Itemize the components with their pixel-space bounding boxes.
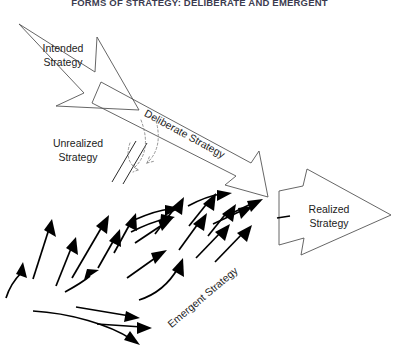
deliberate-label: Deliberate Strategy: [143, 107, 228, 161]
deliberate-strategy-arrow: [92, 82, 268, 197]
unrealized-hash-1: [112, 141, 136, 182]
emergent-label: Emergent Strategy: [165, 264, 240, 330]
emergent-arrow: [76, 307, 130, 316]
unrealized-hash-2: [123, 143, 147, 184]
emergent-arrowhead: [151, 250, 167, 264]
realized-label-line1: Realized: [309, 203, 350, 215]
emergent-strategy-label: Emergent Strategy: [165, 264, 240, 330]
deliberate-strategy-label: Deliberate Strategy: [143, 107, 228, 161]
emergent-arrowhead: [137, 322, 152, 334]
unrealized-strategy-label: Unrealized Strategy: [53, 137, 103, 163]
emergent-arrowhead: [84, 269, 99, 280]
emergent-arrow: [33, 229, 49, 279]
emergent-arrow: [6, 272, 22, 298]
emergent-arrow: [139, 268, 178, 300]
figure-title: FORMS OF STRATEGY: DELIBERATE AND EMERGE…: [71, 0, 328, 8]
unrealized-label-line1: Unrealized: [53, 137, 103, 149]
emergent-arrow: [56, 246, 72, 286]
intended-label-line2: Strategy: [43, 56, 83, 68]
emergent-arrowhead: [247, 199, 263, 212]
emergent-arrowhead: [171, 197, 184, 215]
strategy-diagram: FORMS OF STRATEGY: DELIBERATE AND EMERGE…: [0, 0, 399, 354]
emergent-arrowhead: [215, 224, 230, 241]
unrealized-dashed-arrows: [128, 117, 158, 172]
realized-label-line2: Strategy: [309, 217, 349, 229]
intended-label-line1: Intended: [43, 42, 84, 54]
emergent-arrow: [215, 232, 244, 262]
emergent-arrowhead: [66, 237, 78, 255]
realized-strategy-label: Realized Strategy: [309, 203, 350, 229]
emergent-arrowhead: [96, 215, 109, 234]
deliberate-arrow-outline: [92, 82, 268, 197]
emergent-arrowhead: [217, 190, 232, 201]
unrealized-hash-marks: [112, 141, 147, 184]
emergent-arrowhead: [237, 225, 252, 242]
emergent-arrowhead: [124, 311, 140, 322]
figure-canvas: FORMS OF STRATEGY: DELIBERATE AND EMERGE…: [0, 0, 399, 354]
emergent-strategy-arrows: [6, 190, 290, 345]
emergent-arrowhead: [44, 219, 56, 237]
unrealized-label-line2: Strategy: [58, 151, 98, 163]
